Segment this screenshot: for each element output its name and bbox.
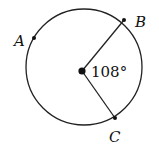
angle-label: 108° <box>91 63 127 81</box>
label-a: A <box>12 32 25 50</box>
point-a <box>32 36 36 40</box>
point-c <box>113 116 117 120</box>
center-point <box>78 67 85 74</box>
label-b: B <box>134 13 146 31</box>
point-b <box>122 18 126 22</box>
label-c: C <box>109 128 121 146</box>
circle-diagram: A B C 108° <box>0 0 159 155</box>
